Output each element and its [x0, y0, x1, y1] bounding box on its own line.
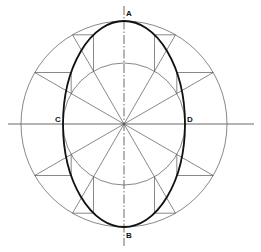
- radial-line: [124, 35, 176, 124]
- ellipse-construction-diagram: A B C D: [0, 0, 261, 252]
- radial-line: [73, 124, 125, 213]
- radial-line: [124, 73, 213, 125]
- label-b: B: [126, 231, 132, 240]
- label-c: C: [55, 115, 61, 124]
- radial-line: [35, 73, 124, 125]
- label-a: A: [126, 9, 132, 18]
- radial-line: [35, 124, 124, 176]
- radial-line: [124, 124, 213, 176]
- radial-line: [73, 35, 125, 124]
- radial-line: [124, 124, 176, 213]
- label-d: D: [187, 115, 193, 124]
- axes: [8, 6, 254, 246]
